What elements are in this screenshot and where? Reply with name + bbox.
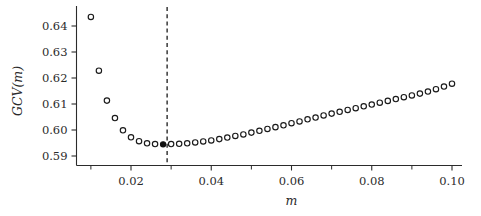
data-point (289, 121, 294, 126)
data-point (217, 136, 222, 141)
x-tick-label-0.08: 0.08 (359, 174, 385, 188)
data-point (257, 128, 262, 133)
data-point (297, 119, 302, 124)
x-axis-title: m (286, 193, 298, 208)
data-point (393, 96, 398, 101)
data-point (441, 84, 446, 89)
data-point (417, 91, 422, 96)
data-point (425, 89, 430, 94)
x-tick-label-0.10: 0.10 (439, 174, 465, 188)
data-point (265, 126, 270, 131)
data-point (104, 98, 109, 103)
data-points-layer (88, 14, 455, 147)
data-point (201, 139, 206, 144)
data-point (361, 104, 366, 109)
data-point (329, 111, 334, 116)
data-point (401, 95, 406, 100)
data-point (449, 81, 454, 86)
data-point (225, 135, 230, 140)
data-point (120, 128, 125, 133)
data-point (184, 141, 189, 146)
gcv-scatter-figure: 0.590.600.610.620.630.640.020.040.060.08… (0, 0, 481, 216)
data-point (241, 132, 246, 137)
axes-layer (72, 6, 463, 171)
data-point (168, 141, 173, 146)
data-point (337, 109, 342, 114)
y-tick-label-0.63: 0.63 (42, 45, 68, 59)
y-tick-label-0.62: 0.62 (42, 71, 68, 85)
data-point (305, 117, 310, 122)
x-tick-label-0.02: 0.02 (118, 174, 144, 188)
data-point (136, 138, 141, 143)
data-point (273, 124, 278, 129)
data-point (321, 113, 326, 118)
data-point (233, 133, 238, 138)
data-point (345, 107, 350, 112)
data-point (281, 123, 286, 128)
data-point (193, 140, 198, 145)
data-point (112, 115, 117, 120)
data-point (144, 141, 149, 146)
data-point (249, 130, 254, 135)
data-point (96, 68, 101, 73)
data-point (433, 86, 438, 91)
x-tick-label-0.06: 0.06 (279, 174, 305, 188)
data-point (377, 100, 382, 105)
data-point (313, 115, 318, 120)
data-point-minimum (161, 142, 166, 147)
data-point (176, 141, 181, 146)
y-tick-label-0.60: 0.60 (42, 123, 68, 137)
data-point (88, 14, 93, 19)
y-tick-label-0.59: 0.59 (42, 149, 68, 163)
data-point (369, 102, 374, 107)
data-point (209, 138, 214, 143)
data-point (409, 93, 414, 98)
data-point (353, 105, 358, 110)
x-tick-label-0.04: 0.04 (198, 174, 224, 188)
data-point (152, 141, 157, 146)
plot-canvas: 0.590.600.610.620.630.640.020.040.060.08… (0, 0, 481, 216)
data-point (128, 135, 133, 140)
y-tick-label-0.61: 0.61 (42, 97, 68, 111)
data-point (385, 98, 390, 103)
axis-labels-layer: 0.590.600.610.620.630.640.020.040.060.08… (10, 19, 465, 208)
y-tick-label-0.64: 0.64 (42, 19, 68, 33)
y-axis-title: GCV(m) (10, 66, 25, 116)
